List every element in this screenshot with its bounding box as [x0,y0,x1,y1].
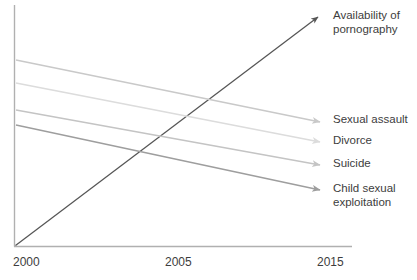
x-axis-tick-2000: 2000 [13,255,40,269]
series-label-suicide: Suicide [333,157,371,171]
series-label-availability-of-pornography: Availability of pornography [333,9,400,36]
x-axis-tick-2005: 2005 [165,255,192,269]
series-line-availability-of-pornography [16,17,319,246]
x-axis-tick-2015: 2015 [317,255,344,269]
series-line-suicide [16,110,320,165]
series-line-child-sexual-exploitation [16,125,320,190]
series-label-child-sexual-exploitation: Child sexual exploitation [333,182,396,209]
series-label-sexual-assault: Sexual assault [333,113,408,127]
series-label-divorce: Divorce [333,134,372,148]
chart-container: Availability of pornography Sexual assau… [0,0,417,280]
